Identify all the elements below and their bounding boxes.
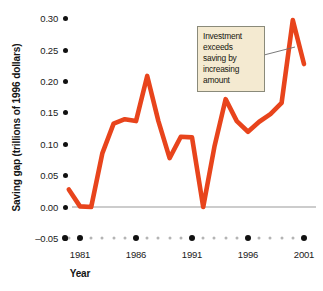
x-axis-minor-dot	[157, 237, 160, 240]
x-axis-major-dot	[133, 235, 139, 241]
x-axis-minor-dot	[280, 237, 283, 240]
x-axis-minor-dot	[146, 237, 149, 240]
chart-container: Saving gap (trillions of 1996 dollars) 0…	[0, 0, 323, 291]
x-tick-label-1996: 1996	[238, 249, 258, 260]
x-axis-minor-dot	[179, 237, 182, 240]
annotation-callout: Investment exceeds saving by increasing …	[197, 26, 265, 92]
callout-line-2: exceeds	[203, 42, 259, 53]
x-axis-minor-dot	[101, 237, 104, 240]
x-axis-minor-dot	[291, 237, 294, 240]
callout-line-3: saving by	[203, 53, 259, 64]
callout-line-5: amount	[203, 75, 259, 86]
x-tick-label-1981: 1981	[70, 249, 90, 260]
x-axis-minor-dot	[269, 237, 272, 240]
x-axis-major-dot	[301, 235, 307, 241]
x-axis-minor-dot	[202, 237, 205, 240]
x-axis-minor-dot	[224, 237, 227, 240]
x-axis-minor-dot	[168, 237, 171, 240]
x-tick-label-1991: 1991	[182, 249, 202, 260]
x-axis-minor-dot	[90, 237, 93, 240]
plot-area	[0, 0, 323, 291]
x-tick-label-1986: 1986	[126, 249, 146, 260]
x-axis-minor-dot	[258, 237, 261, 240]
x-axis-title: Year	[70, 268, 91, 279]
x-axis-major-dot	[77, 235, 83, 241]
x-axis-major-dot	[189, 235, 195, 241]
x-axis-minor-dot	[123, 237, 126, 240]
x-axis-major-dot	[245, 235, 251, 241]
y-tick-dot-minus005	[62, 235, 68, 241]
callout-line-1: Investment	[203, 31, 259, 42]
x-axis-minor-dot	[235, 237, 238, 240]
saving-gap-line	[69, 20, 304, 207]
callout-line-4: increasing	[203, 64, 259, 75]
x-tick-label-2001: 2001	[294, 249, 314, 260]
x-axis-minor-dot	[112, 237, 115, 240]
x-axis-minor-dot	[213, 237, 216, 240]
